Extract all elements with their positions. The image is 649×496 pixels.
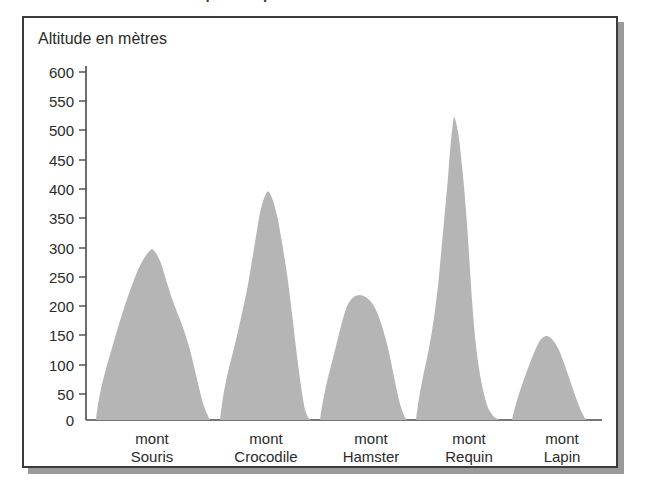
x-label-line2: Lapin [544,448,581,465]
y-tick-600: 600 [49,64,86,81]
y-tick-500: 500 [49,122,86,139]
x-label-mont-requin: mont Requin [445,430,493,465]
y-tick-label: 50 [57,386,74,403]
x-label-line2: Hamster [343,448,400,465]
y-tick-label: 300 [49,240,74,257]
y-tick-200: 200 [49,298,86,315]
cropped-header-strip: ... ... ... que chaque main et son enver… [0,0,649,13]
mountain-mont-requin [416,116,500,420]
y-tick-label: 550 [49,93,74,110]
y-tick-100: 100 [49,357,86,374]
chart-plot-area: Altitude en mètres 600 550 500 [24,18,616,466]
mountain-silhouettes [96,116,586,420]
cropped-header-text: ... ... ... que chaque main et son enver… [0,0,649,2]
x-label-line1: mont [135,430,169,447]
y-axis-title: Altitude en mètres [38,30,167,47]
x-axis-category-labels: mont Souris mont Crocodile mont Hamster … [131,430,581,465]
y-tick-label: 350 [49,210,74,227]
x-label-mont-hamster: mont Hamster [343,430,400,465]
y-tick-450: 450 [49,152,86,169]
y-tick-label: 200 [49,298,74,315]
y-tick-300: 300 [49,240,86,257]
mountain-mont-hamster [320,295,407,420]
x-label-line2: Souris [131,448,174,465]
x-label-mont-lapin: mont Lapin [544,430,581,465]
y-tick-350: 350 [49,210,86,227]
y-tick-label: 500 [49,122,74,139]
y-tick-150: 150 [49,327,86,344]
y-tick-550: 550 [49,93,86,110]
figure-frame: Altitude en mètres 600 550 500 [22,16,618,468]
x-label-line1: mont [545,430,579,447]
y-tick-label: 150 [49,327,74,344]
mountain-altitude-chart: Altitude en mètres 600 550 500 [24,18,616,466]
y-axis-ticks: 600 550 500 450 400 [49,64,86,429]
x-label-line2: Requin [445,448,493,465]
y-tick-label: 600 [49,64,74,81]
y-tick-label: 400 [49,181,74,198]
mountain-mont-crocodile [220,191,311,420]
x-label-line2: Crocodile [234,448,297,465]
y-tick-label: 250 [49,269,74,286]
mountain-mont-souris [96,249,210,420]
x-label-mont-crocodile: mont Crocodile [234,430,297,465]
y-tick-0: 0 [66,412,74,429]
y-tick-400: 400 [49,181,86,198]
y-tick-label: 100 [49,357,74,374]
y-tick-250: 250 [49,269,86,286]
y-tick-label: 450 [49,152,74,169]
x-label-mont-souris: mont Souris [131,430,174,465]
mountain-mont-lapin [512,336,586,420]
y-tick-50: 50 [57,386,86,403]
x-label-line1: mont [249,430,283,447]
x-label-line1: mont [354,430,388,447]
x-label-line1: mont [452,430,486,447]
y-tick-label: 0 [66,412,74,429]
